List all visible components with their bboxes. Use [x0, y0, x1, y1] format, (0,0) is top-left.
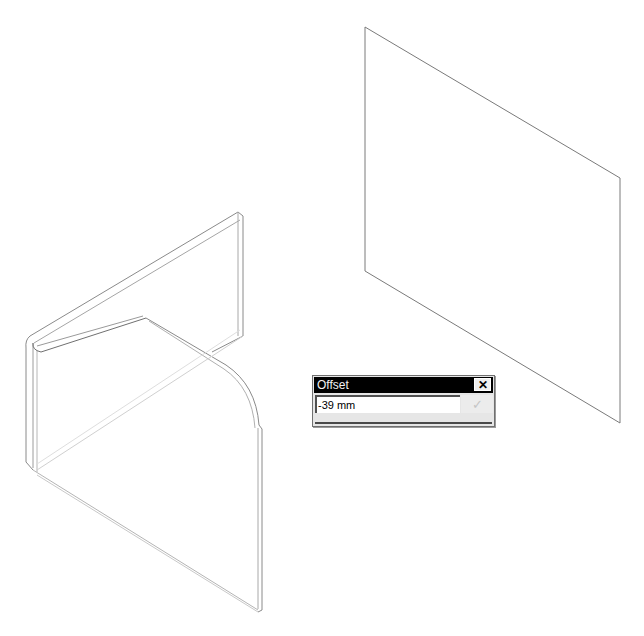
confirm-button[interactable]: ✓	[461, 395, 493, 413]
offset-input[interactable]	[317, 397, 460, 413]
close-icon: ✕	[478, 379, 488, 391]
reference-plane	[365, 27, 620, 423]
dialog-divider	[315, 422, 492, 424]
offset-field-wrapper	[315, 395, 460, 413]
dialog-title: Offset	[317, 378, 349, 392]
3d-viewport[interactable]: Offset ✕ ✓	[0, 0, 644, 636]
scene-graphics	[0, 0, 644, 636]
offset-dialog: Offset ✕ ✓	[312, 375, 495, 427]
close-button[interactable]: ✕	[474, 378, 491, 391]
checkmark-icon: ✓	[472, 397, 483, 412]
sheet-metal-part	[26, 212, 262, 612]
dialog-titlebar[interactable]: Offset ✕	[314, 377, 493, 393]
